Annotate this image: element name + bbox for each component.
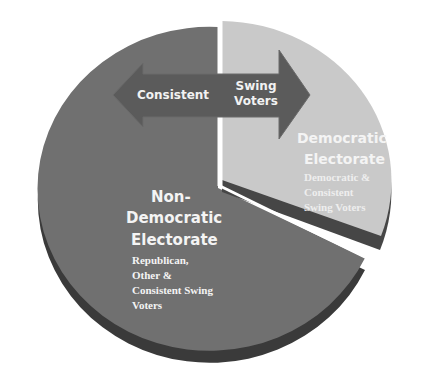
non-democratic-title-line2: Democratic [126,208,276,229]
democratic-title-line2: Electorate [297,149,407,170]
arrow-right-label: Swing Voters [226,79,286,109]
non-democratic-desc-line1: Republican, [126,253,276,268]
democratic-title-line1: Democratic [297,128,407,149]
arrow-left-label: Consistent [135,88,211,103]
arrow-right-label-line1: Swing [226,79,286,94]
democratic-desc-line3: Swing Voters [297,200,407,215]
democratic-desc-line2: Consistent [297,185,407,200]
non-democratic-label-group: Non- Democratic Electorate Republican, O… [126,187,276,313]
democratic-desc-line1: Democratic & [297,170,407,185]
democratic-label-group: Democratic Electorate Democratic & Consi… [297,128,407,215]
non-democratic-desc-line3: Consistent Swing [126,283,276,298]
arrow-right-label-line2: Voters [226,94,286,109]
non-democratic-desc-line4: Voters [126,298,276,313]
non-democratic-title-line3: Electorate [126,229,276,251]
non-democratic-desc-line2: Other & [126,268,276,283]
non-democratic-title-line1: Non- [126,187,276,208]
